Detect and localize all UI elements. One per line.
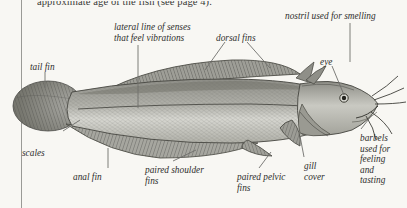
label-nostril: nostril used for smelling	[285, 11, 376, 22]
leader-dorsal-left	[205, 42, 225, 70]
label-gill-cover: gill cover	[304, 161, 325, 182]
label-lateral-line: lateral line of senses that feel vibrati…	[114, 22, 191, 43]
label-eye: eye	[320, 57, 332, 68]
leader-dorsal-right	[247, 42, 270, 68]
label-dorsal-fins: dorsal fins	[216, 33, 256, 44]
label-tail-fin: tail fin	[30, 62, 55, 73]
leader-gill-cover	[300, 136, 304, 157]
label-anal-fin: anal fin	[73, 172, 102, 183]
leader-shoulder-fins	[173, 150, 196, 161]
label-pelvic-fins: paired pelvic fins	[237, 172, 285, 193]
label-shoulder-fins: paired shoulder fins	[145, 165, 204, 186]
label-barbels: barbels used for feeling and tasting	[360, 133, 390, 186]
leader-barbels	[361, 115, 372, 129]
label-scales: scales	[22, 148, 45, 159]
leader-scales	[63, 120, 80, 131]
leader-eye	[332, 66, 344, 95]
leader-pelvic-fins	[259, 152, 271, 168]
figure-page: approximate age of the fish (see page 4)…	[0, 0, 407, 208]
